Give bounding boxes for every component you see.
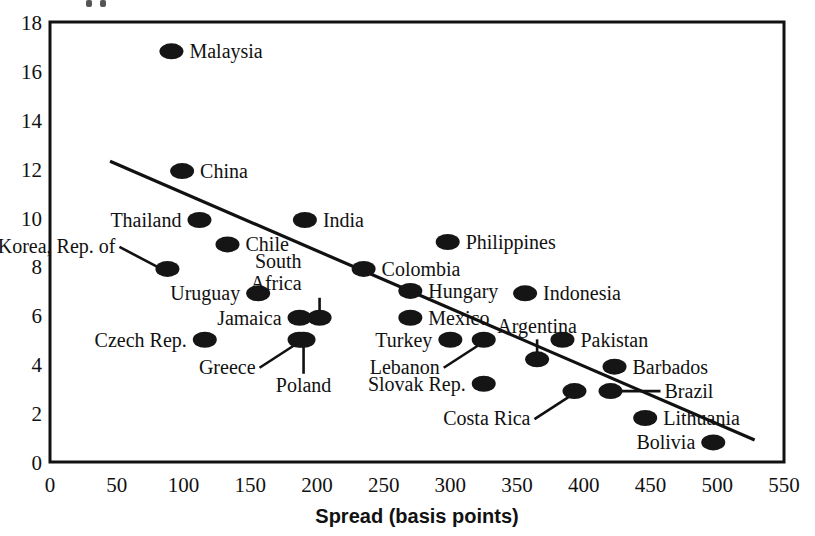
leader-line (444, 346, 478, 368)
x-tick-label: 250 (368, 473, 400, 497)
x-tick-label: 350 (501, 473, 533, 497)
data-point-marker (603, 359, 627, 375)
x-axis-title: Spread (basis points) (315, 505, 518, 527)
data-point-marker (701, 434, 725, 450)
data-point-marker (352, 261, 376, 277)
data-point-label: South (255, 250, 302, 272)
x-tick-label: 0 (45, 473, 56, 497)
data-point-marker (159, 43, 183, 59)
data-point-label: Africa (251, 272, 302, 294)
data-point-label: Philippines (466, 231, 556, 254)
data-point-marker (293, 212, 317, 228)
data-point-label: Jamaica (217, 307, 282, 329)
y-tick-label: 8 (32, 255, 43, 279)
x-tick-label: 500 (702, 473, 734, 497)
data-point-marker (193, 332, 217, 348)
y-tick-label: 6 (32, 304, 43, 328)
data-point-marker (562, 383, 586, 399)
data-point-marker (170, 163, 194, 179)
data-point-label: Greece (199, 356, 256, 378)
y-tick-label: 2 (32, 402, 43, 426)
data-point-marker (187, 212, 211, 228)
data-point-marker (398, 310, 422, 326)
data-point-label: China (200, 160, 248, 182)
data-point-label: Poland (276, 374, 332, 396)
x-tick-label: 450 (635, 473, 667, 497)
x-tick-label: 200 (301, 473, 333, 497)
cropped-title-artifact (86, 0, 106, 7)
data-point-label: Lithuania (663, 407, 740, 429)
plot-svg: 024681012141618 050100150200250300350400… (0, 0, 815, 536)
data-point-label: Brazil (665, 380, 714, 402)
data-point-marker (215, 236, 239, 252)
x-tick-label: 400 (568, 473, 600, 497)
data-point-label: Korea, Rep. of (0, 235, 116, 258)
y-tick-label: 10 (21, 207, 42, 231)
data-point-marker (398, 283, 422, 299)
data-point-label: Costa Rica (443, 407, 530, 429)
data-point-marker (292, 332, 316, 348)
y-tick-label: 0 (32, 451, 43, 475)
y-tick-label: 18 (21, 11, 42, 35)
x-tick-label: 300 (435, 473, 467, 497)
leader-line (534, 397, 568, 419)
x-tick-label: 550 (768, 473, 800, 497)
data-point-marker (633, 410, 657, 426)
data-point-marker (525, 351, 549, 367)
y-tick-label: 12 (21, 158, 42, 182)
data-point-marker (436, 234, 460, 250)
scatter-chart-figure: 024681012141618 050100150200250300350400… (0, 0, 815, 536)
data-point-marker (155, 261, 179, 277)
data-point-label: Argentina (497, 315, 577, 338)
y-tick-label: 4 (32, 353, 43, 377)
data-point-label: Mexico (428, 307, 489, 329)
data-point-label: Bolivia (636, 431, 695, 453)
data-point-label: Pakistan (580, 329, 648, 351)
data-point-marker (599, 383, 623, 399)
x-tick-label: 150 (234, 473, 266, 497)
data-point-label: Indonesia (543, 282, 621, 304)
data-point-label: Malaysia (189, 40, 262, 63)
data-point-marker (472, 332, 496, 348)
data-point-label: Turkey (375, 329, 432, 352)
leader-line (119, 247, 157, 267)
x-tick-label: 100 (168, 473, 200, 497)
data-point-label: Thailand (110, 209, 181, 231)
y-tick-label: 14 (21, 109, 43, 133)
x-tick-label: 50 (106, 473, 127, 497)
data-point-marker (513, 285, 537, 301)
data-point-marker (288, 310, 312, 326)
data-point-label: Slovak Rep. (368, 373, 466, 396)
data-point-label: Hungary (428, 280, 498, 303)
data-point-label: India (323, 209, 364, 231)
leader-line (260, 346, 294, 368)
data-point-label: Barbados (633, 356, 709, 378)
data-point-label: Colombia (382, 258, 461, 280)
data-point-marker (472, 376, 496, 392)
data-point-marker (438, 332, 462, 348)
data-point-label: Uruguay (170, 282, 240, 305)
y-tick-label: 16 (21, 60, 42, 84)
x-axis-tick-labels: 050100150200250300350400450500550 (45, 473, 800, 497)
data-point-label: Czech Rep. (95, 329, 187, 352)
